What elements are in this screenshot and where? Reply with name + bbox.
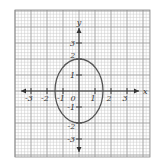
origin-label: 0 xyxy=(70,94,75,103)
y-tick-label: 1 xyxy=(70,71,75,80)
y-tick-label: -3 xyxy=(67,135,75,144)
y-axis-label: y xyxy=(76,18,82,27)
axes xyxy=(21,28,139,152)
x-tick-label: -1 xyxy=(57,94,65,103)
x-axis-left-arrow xyxy=(21,89,26,94)
y-intercept-label: -2 xyxy=(68,122,76,131)
x-axis-label: x xyxy=(143,87,148,96)
x-tick-label: 3 xyxy=(122,94,127,103)
y-axis-down-arrow xyxy=(77,147,82,152)
major-grid xyxy=(15,10,150,157)
labels: -3-2-1123-3-1132-20xy xyxy=(25,18,148,144)
minor-grid xyxy=(15,10,150,157)
y-tick-label: 3 xyxy=(70,39,75,48)
y-intercept-label: 2 xyxy=(69,51,75,60)
y-tick-label: -1 xyxy=(67,103,75,112)
coordinate-plane: -3-2-1123-3-1132-20xy xyxy=(0,0,162,164)
y-axis-up-arrow xyxy=(77,28,82,33)
x-tick-label: -3 xyxy=(25,94,33,103)
x-tick-label: -2 xyxy=(41,94,49,103)
x-tick-label: 2 xyxy=(105,94,111,103)
grid-border xyxy=(15,10,150,157)
x-tick-label: 1 xyxy=(90,94,95,103)
